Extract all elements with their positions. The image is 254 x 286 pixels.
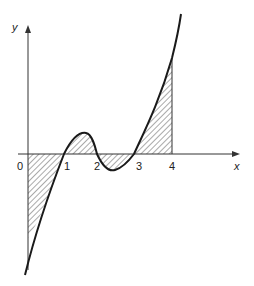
y-axis-label: y xyxy=(11,21,19,33)
shaded-regions xyxy=(28,58,172,238)
tick-4: 4 xyxy=(169,160,175,172)
x-axis-arrow-icon xyxy=(232,151,240,157)
tick-2: 2 xyxy=(94,160,100,172)
y-axis-arrow-icon xyxy=(25,25,31,33)
tick-1: 1 xyxy=(64,160,70,172)
tick-3: 3 xyxy=(136,160,142,172)
origin-label: 0 xyxy=(17,160,23,172)
area-diagram: y x 0 1 2 3 4 xyxy=(0,0,254,286)
x-axis-label: x xyxy=(233,160,240,172)
